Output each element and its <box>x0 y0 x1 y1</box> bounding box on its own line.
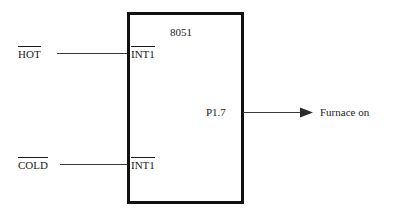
signal-label-hot-text: HOT <box>18 48 41 60</box>
chip-label-8051: 8051 <box>170 27 192 38</box>
output-label-furnace-on: Furnace on <box>320 107 369 118</box>
pin-label-int1-bottom-text: INT1 <box>131 159 155 171</box>
arrow-right-icon <box>300 108 313 118</box>
block-diagram: 8051 INT1 INT1 P1.7 HOT COLD Furnace on <box>0 0 394 223</box>
signal-label-cold-text: COLD <box>18 159 48 171</box>
signal-label-hot: HOT <box>18 48 41 60</box>
pin-label-int1-top-text: INT1 <box>131 48 155 60</box>
pin-label-p17: P1.7 <box>206 107 226 118</box>
pin-label-int1-top: INT1 <box>131 48 155 60</box>
pin-label-int1-bottom: INT1 <box>131 159 155 171</box>
signal-label-cold: COLD <box>18 159 48 171</box>
